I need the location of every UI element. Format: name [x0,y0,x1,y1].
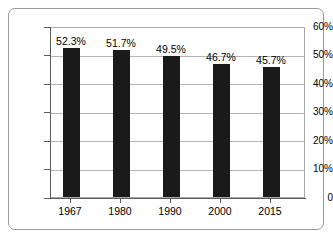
y-tick-mark-0 [44,198,50,199]
bar-2000 [213,64,230,197]
x-tick-label-2000: 2000 [194,206,246,217]
x-tick-label-1967: 1967 [44,206,96,217]
y-tick-label-60: 60% [291,22,333,32]
x-tick-mark-1980 [120,198,121,203]
y-tick-label-0: 0 [291,193,333,203]
x-tick-label-1980: 1980 [94,206,146,217]
x-axis-line [50,198,306,199]
x-tick-mark-1990 [170,198,171,203]
bar-1990 [163,56,180,197]
bar-2015 [263,67,280,197]
y-tick-label-40: 40% [291,79,333,89]
y-axis-line [50,27,51,199]
y-tick-mark-40 [44,84,50,85]
y-tick-mark-10 [44,169,50,170]
y-tick-mark-30 [44,112,50,113]
bar-value-label-2015: 45.7% [241,55,301,66]
x-tick-mark-1967 [70,198,71,203]
x-tick-label-2015: 2015 [244,206,296,217]
y-tick-label-10: 10% [291,164,333,174]
bar-1967 [63,48,80,197]
x-tick-mark-2000 [220,198,221,203]
y-tick-mark-50 [44,55,50,56]
y-tick-mark-60 [44,27,50,28]
y-tick-label-30: 30% [291,107,333,117]
y-tick-mark-20 [44,141,50,142]
x-tick-mark-2015 [270,198,271,203]
y-tick-label-20: 20% [291,136,333,146]
chart-figure: 60% 50% 40% 30% 20% 10% 0 1967 1980 1990… [0,0,333,239]
bar-1980 [113,50,130,197]
x-tick-label-1990: 1990 [144,206,196,217]
